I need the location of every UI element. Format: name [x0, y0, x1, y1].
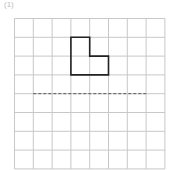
- grid-diagram: [0, 0, 173, 170]
